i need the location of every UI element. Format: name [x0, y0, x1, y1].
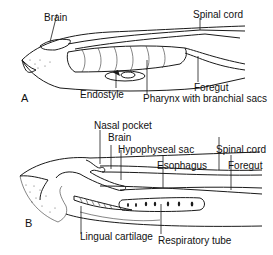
lamprey-anatomy-diagram: A Brain Spinal cord Foregut Endostyle Ph… — [0, 0, 273, 255]
panel-a: A Brain Spinal cord Foregut Endostyle Ph… — [21, 9, 267, 104]
label-hypophyseal-sac: Hypophyseal sac — [118, 144, 194, 155]
label-pharynx: Pharynx with branchial sacs — [143, 93, 267, 104]
label-brain-b: Brain — [108, 132, 131, 143]
panel-label-b: B — [25, 217, 32, 229]
label-nasal-pocket: Nasal pocket — [94, 120, 152, 131]
label-foregut-b: Foregut — [228, 160, 263, 171]
panel-b-body-outline — [20, 152, 262, 226]
label-brain-a: Brain — [44, 12, 67, 23]
panel-b: B Nasal pocket Brain Hypophyseal sac Spi… — [20, 120, 266, 246]
label-esophagus: Esophagus — [157, 160, 207, 171]
label-spinal-cord-b: Spinal cord — [216, 144, 266, 155]
label-foregut-a: Foregut — [194, 82, 229, 93]
panel-label-a: A — [21, 92, 29, 104]
label-endostyle: Endostyle — [80, 89, 124, 100]
label-respiratory-tube: Respiratory tube — [158, 235, 232, 246]
respiratory-tube-openings — [127, 201, 193, 207]
label-spinal-cord-a: Spinal cord — [193, 9, 243, 20]
label-lingual-cartilage: Lingual cartilage — [80, 231, 153, 242]
